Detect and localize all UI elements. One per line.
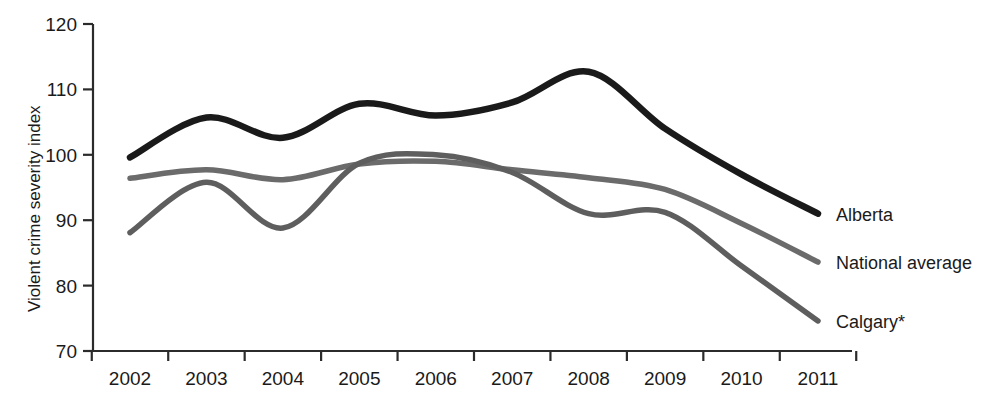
legend-label-national-average: National average [836, 253, 972, 273]
x-tick-label-2004: 2004 [262, 368, 305, 389]
x-tick-label-2009: 2009 [644, 368, 686, 389]
x-tick-label-2003: 2003 [185, 368, 227, 389]
x-tick-label-2006: 2006 [415, 368, 457, 389]
y-tick-label-110: 110 [47, 79, 77, 100]
y-tick-label-90: 90 [56, 210, 77, 231]
violent-crime-severity-index-chart: Violent crime severity index 120 110 100… [0, 0, 985, 399]
legend-label-alberta: Alberta [836, 205, 894, 225]
x-tick-label-2008: 2008 [568, 368, 610, 389]
y-tick-label-80: 80 [56, 276, 77, 297]
x-tick-label-2002: 2002 [109, 368, 151, 389]
x-tick-label-2010: 2010 [720, 368, 762, 389]
chart-background [0, 0, 985, 399]
x-tick-label-2007: 2007 [491, 368, 533, 389]
legend-label-calgary: Calgary* [836, 312, 905, 332]
y-tick-label-120: 120 [45, 14, 77, 35]
y-axis-title-text: Violent crime severity index [25, 105, 44, 312]
x-tick-label-2005: 2005 [338, 368, 380, 389]
y-axis-title: Violent crime severity index [25, 105, 44, 312]
y-tick-label-70: 70 [56, 341, 77, 362]
y-tick-label-100: 100 [45, 145, 77, 166]
x-tick-label-2011: 2011 [798, 368, 839, 389]
chart-canvas: Violent crime severity index 120 110 100… [0, 0, 985, 399]
